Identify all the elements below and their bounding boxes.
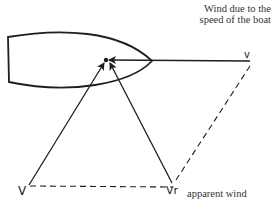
dashed-edge-right — [176, 66, 250, 180]
true-wind-vector — [29, 63, 104, 185]
dashed-edge-bottom — [30, 186, 172, 187]
mast-point — [104, 58, 108, 62]
caption-line-1: Wind due to the — [165, 3, 271, 14]
boat-speed-wind-vector — [109, 60, 250, 61]
wind-vector-diagram — [0, 0, 275, 215]
caption-apparent-wind: apparent wind — [187, 188, 247, 199]
apparent-wind-vector — [110, 63, 172, 183]
label-true-wind-V: V — [18, 184, 26, 198]
caption-line-2: speed of the boat — [165, 14, 271, 25]
label-boat-wind-v: v — [244, 49, 250, 60]
label-apparent-wind-Vr: Vr — [166, 184, 178, 197]
caption-boat-speed-wind: Wind due to the speed of the boat — [165, 3, 271, 25]
